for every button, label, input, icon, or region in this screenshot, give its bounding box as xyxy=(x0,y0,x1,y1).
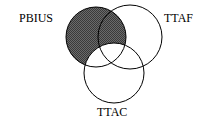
label-ttaf: TTAF xyxy=(164,12,193,24)
label-ttac: TTAC xyxy=(97,106,127,118)
venn-diagram: PBIUS TTAF TTAC xyxy=(0,0,210,126)
label-pbius: PBIUS xyxy=(19,12,53,24)
